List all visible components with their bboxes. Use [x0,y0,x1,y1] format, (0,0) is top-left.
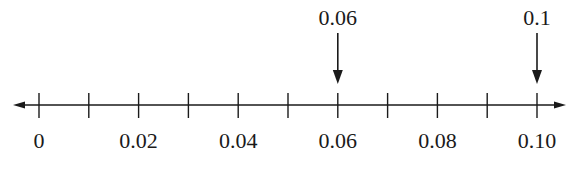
tick-labels: 00.020.040.060.080.10 [34,128,557,153]
number-line-diagram: 00.020.040.060.080.10 0.060.1 [0,0,567,174]
marker-label: 0.1 [523,5,551,30]
marker: 0.06 [319,5,358,84]
left-arrowhead-icon [13,102,25,109]
right-arrowhead-icon [554,102,566,109]
marker-label: 0.06 [319,5,358,30]
axis-line [13,102,566,109]
down-arrow-icon [532,70,542,84]
marker: 0.1 [523,5,551,84]
tick-label: 0.08 [418,128,457,153]
tick-label: 0.10 [518,128,557,153]
tick-label: 0.02 [119,128,158,153]
pointer-markers: 0.060.1 [319,5,551,84]
tick-label: 0.04 [219,128,258,153]
tick-label: 0.06 [319,128,358,153]
down-arrow-icon [333,70,343,84]
tick-label: 0 [34,128,45,153]
